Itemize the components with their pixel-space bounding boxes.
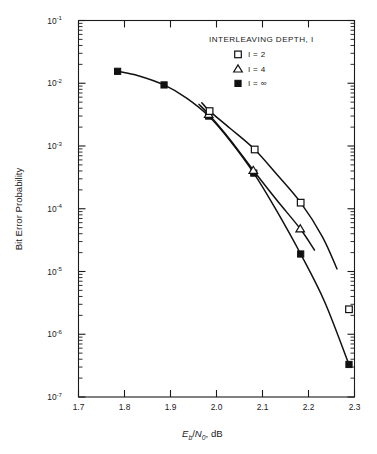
chart-figure: 10-110-210-310-410-510-610-7 1.71.81.92.… (0, 0, 377, 454)
data-point-filled-square (161, 82, 167, 88)
legend-entry-label: I = ∞ (248, 79, 267, 88)
legend-title: INTERLEAVING DEPTH, I (209, 35, 314, 44)
bit-error-probability-chart: 10-110-210-310-410-510-610-7 1.71.81.92.… (0, 0, 377, 454)
legend-marker-open-square (235, 51, 242, 58)
x-axis-title-units: , dB (206, 428, 223, 439)
legend-entries: I = 2I = 4I = ∞ (234, 50, 267, 88)
legend-entry-label: I = 4 (248, 65, 266, 74)
x-axis-title-n: N (195, 428, 202, 439)
x-tick-label: 2.0 (211, 402, 223, 412)
data-point-filled-square (298, 251, 304, 257)
x-tick-label: 1.7 (73, 402, 85, 412)
x-tick-label: 1.8 (119, 402, 131, 412)
y-axis-title: Bit Error Probability (13, 167, 24, 250)
data-point-open-square (297, 199, 304, 206)
x-tick-label: 2.1 (257, 402, 269, 412)
x-tick-label: 1.9 (165, 402, 177, 412)
data-point-filled-square (346, 361, 352, 367)
legend-marker-filled-square (235, 80, 241, 86)
chart-background (0, 0, 377, 454)
data-point-open-square (346, 306, 353, 313)
x-tick-label: 2.3 (349, 402, 361, 412)
data-point-open-square (206, 108, 213, 115)
legend-entry-label: I = 2 (248, 50, 266, 59)
x-tick-label: 2.2 (303, 402, 315, 412)
data-point-open-square (251, 146, 258, 153)
data-point-filled-square (115, 68, 121, 74)
